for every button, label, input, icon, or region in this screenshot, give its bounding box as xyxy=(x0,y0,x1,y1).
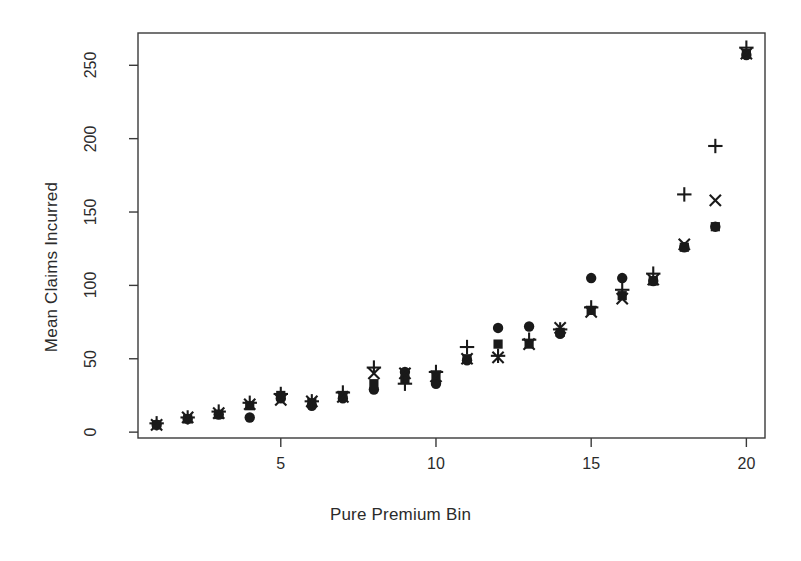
y-tick-label-wrap: 0 xyxy=(61,422,121,442)
data-point-square xyxy=(493,339,502,348)
y-tick-label-wrap: 150 xyxy=(61,202,121,222)
data-point-square xyxy=(711,222,720,231)
data-point-square xyxy=(369,379,378,388)
y-tick-label: 150 xyxy=(82,199,100,226)
x-axis-title: Pure Premium Bin xyxy=(0,505,801,525)
y-tick-label-wrap: 250 xyxy=(61,55,121,75)
plot-border xyxy=(138,33,765,438)
y-tick-label-wrap: 200 xyxy=(61,129,121,149)
x-tick-label: 5 xyxy=(276,455,285,473)
data-point-plus xyxy=(677,187,691,201)
y-tick-label: 50 xyxy=(82,350,100,368)
data-point-circle xyxy=(617,273,627,283)
y-tick-label: 250 xyxy=(82,52,100,79)
x-tick-label: 10 xyxy=(427,455,445,473)
x-tick-label: 15 xyxy=(582,455,600,473)
y-axis-title: Mean Claims Incurred xyxy=(42,137,62,397)
y-tick-label-wrap: 100 xyxy=(61,275,121,295)
y-tick-label-wrap: 50 xyxy=(61,349,121,369)
data-point-circle xyxy=(524,321,534,331)
data-point-plus xyxy=(460,340,474,354)
data-point-plus xyxy=(708,139,722,153)
y-tick-label: 200 xyxy=(82,125,100,152)
data-point-circle xyxy=(245,412,255,422)
data-point-cross xyxy=(710,195,721,206)
y-tick-label: 0 xyxy=(82,428,100,437)
chart-figure: Pure Premium Bin Mean Claims Incurred 51… xyxy=(0,0,801,561)
x-tick-label: 20 xyxy=(737,455,755,473)
data-point-circle xyxy=(586,273,596,283)
y-tick-label: 100 xyxy=(82,272,100,299)
data-point-circle xyxy=(493,323,503,333)
